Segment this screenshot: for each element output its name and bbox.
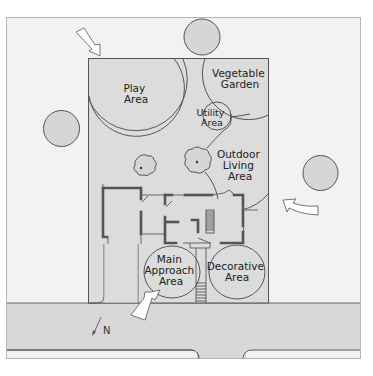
site-plan-diagram: N Play Area Vegetable Garden Utility Are…	[0, 0, 373, 376]
north-label: N	[103, 325, 110, 336]
shrub-left	[134, 155, 156, 176]
tree-west	[44, 111, 80, 147]
play-area-label: Play Area	[123, 82, 148, 105]
front-steps	[196, 283, 206, 301]
tree-north	[184, 19, 220, 55]
tree-east	[303, 156, 338, 191]
utility-area-label: Utility Area	[197, 107, 228, 128]
shrub-right	[185, 147, 212, 173]
street	[7, 303, 360, 358]
